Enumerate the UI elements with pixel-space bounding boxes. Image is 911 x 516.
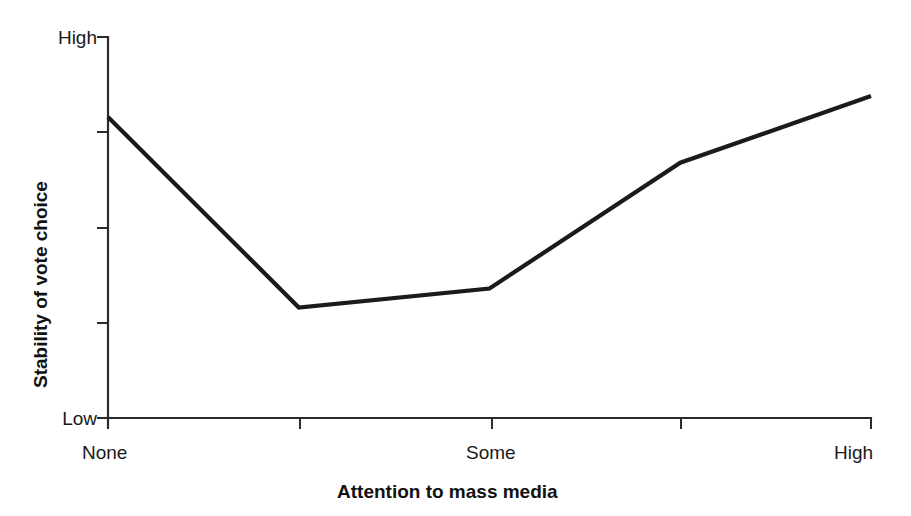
data-line-stability bbox=[108, 96, 871, 307]
x-axis-ticks bbox=[108, 418, 871, 429]
chart-figure: High Low Stability of vote choice None S… bbox=[0, 0, 911, 516]
x-axis-label-none: None bbox=[82, 443, 127, 462]
y-axis-label-low: Low bbox=[62, 409, 97, 428]
y-axis-ticks bbox=[97, 37, 108, 418]
x-axis-title: Attention to mass media bbox=[337, 482, 558, 501]
x-axis-label-high: High bbox=[834, 443, 873, 462]
chart-plot-area bbox=[0, 0, 911, 516]
x-axis-label-some: Some bbox=[466, 443, 516, 462]
y-axis-title: Stability of vote choice bbox=[31, 181, 50, 388]
y-axis-label-high: High bbox=[58, 28, 97, 47]
